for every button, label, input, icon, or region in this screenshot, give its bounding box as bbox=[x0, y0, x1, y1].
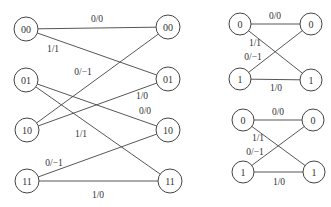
edge-label: 1/0 bbox=[270, 83, 282, 93]
state-label: 1 bbox=[312, 167, 317, 178]
state-node-A1: 1 bbox=[229, 68, 251, 90]
state-label: 00 bbox=[21, 24, 31, 35]
edge-label: 0/−1 bbox=[246, 147, 264, 157]
state-label: 01 bbox=[163, 74, 173, 85]
state-node-B1: 1 bbox=[300, 69, 322, 91]
state-label: 1 bbox=[238, 74, 243, 85]
edge-label: 1/1 bbox=[75, 129, 87, 139]
state-node-L11: 11 bbox=[15, 169, 39, 193]
state-label: 11 bbox=[22, 176, 32, 187]
state-node-L10: 10 bbox=[15, 118, 39, 142]
state-node-D0: 0 bbox=[302, 109, 324, 131]
state-node-L00: 00 bbox=[14, 17, 38, 41]
edge-label: 1/1 bbox=[249, 38, 261, 48]
edges-layer bbox=[36, 24, 305, 181]
state-label: 11 bbox=[165, 176, 175, 187]
transition-edge-L00-R00 bbox=[38, 27, 156, 29]
state-node-R00: 00 bbox=[156, 15, 180, 39]
state-node-C1: 1 bbox=[232, 161, 254, 183]
state-node-D1: 1 bbox=[303, 161, 325, 183]
state-label: 01 bbox=[21, 75, 31, 86]
trellis-diagram-canvas: 000110110001101101010101 0/01/10/01/10/−… bbox=[0, 0, 331, 207]
state-label: 0 bbox=[238, 19, 243, 30]
edge-label: 0/0 bbox=[91, 14, 103, 24]
state-label: 0 bbox=[241, 115, 246, 126]
edge-label: 0/−1 bbox=[45, 158, 63, 168]
state-node-R11: 11 bbox=[158, 169, 182, 193]
transition-edge-L00-R01 bbox=[37, 33, 156, 75]
transition-edge-L11-R10 bbox=[38, 134, 156, 177]
edge-label: 1/0 bbox=[273, 177, 285, 187]
state-label: 10 bbox=[22, 125, 32, 136]
edge-label: 0/0 bbox=[139, 106, 151, 116]
state-node-A0: 0 bbox=[229, 13, 251, 35]
edge-label: 0/−1 bbox=[74, 67, 92, 77]
state-label: 0 bbox=[311, 115, 316, 126]
state-node-R01: 01 bbox=[156, 67, 180, 91]
state-label: 0 bbox=[309, 19, 314, 30]
state-label: 00 bbox=[163, 22, 173, 33]
state-node-L01: 01 bbox=[14, 68, 38, 92]
state-label: 1 bbox=[241, 167, 246, 178]
edge-label: 1/0 bbox=[136, 91, 148, 101]
state-label: 10 bbox=[163, 125, 173, 136]
edge-label: 1/0 bbox=[92, 190, 104, 200]
state-node-R10: 10 bbox=[156, 118, 180, 142]
edge-label: 0/−1 bbox=[244, 52, 262, 62]
state-label: 1 bbox=[309, 75, 314, 86]
state-node-C0: 0 bbox=[232, 109, 254, 131]
transition-edge-A1-B1 bbox=[251, 79, 300, 80]
edge-label: 1/1 bbox=[47, 44, 59, 54]
edge-label: 1/1 bbox=[252, 133, 264, 143]
edge-label: 0/0 bbox=[272, 107, 284, 117]
state-node-B0: 0 bbox=[300, 13, 322, 35]
edge-label: 0/0 bbox=[269, 11, 281, 21]
